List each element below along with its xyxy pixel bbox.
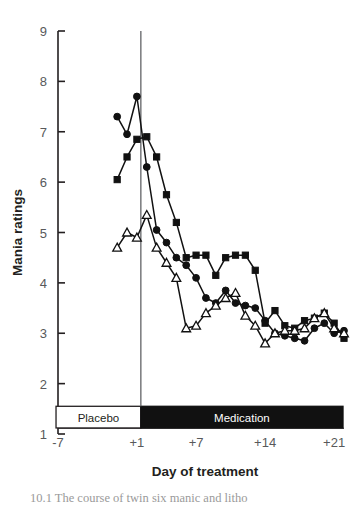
x-axis-tick-label: -7 (52, 435, 64, 450)
y-axis-tick-label: 9 (40, 24, 47, 39)
data-point-square (213, 272, 219, 278)
data-point-circle (321, 320, 328, 327)
y-axis-tick-label: 8 (40, 74, 47, 89)
data-point-circle (143, 164, 150, 171)
data-point-square (163, 192, 169, 198)
data-point-circle (124, 131, 131, 138)
y-axis-tick-label: 6 (40, 175, 47, 190)
data-point-circle (232, 300, 239, 307)
data-point-circle (291, 335, 298, 342)
data-point-circle (133, 93, 140, 100)
data-point-circle (301, 337, 308, 344)
x-axis-tick-label: +1 (129, 435, 144, 450)
data-point-square (183, 255, 189, 261)
y-axis-tick-label: 3 (40, 326, 47, 341)
data-point-square (223, 255, 229, 261)
data-point-square (232, 252, 238, 258)
x-axis-tick-label: +7 (189, 435, 204, 450)
phase-band-label-medication: Medication (214, 412, 270, 424)
data-point-circle (183, 262, 190, 269)
data-point-circle (163, 239, 170, 246)
data-point-square (134, 136, 140, 142)
y-axis-tick-label: 2 (40, 377, 47, 392)
figure-caption-text: 10.1 The course of twin six manic and li… (30, 491, 247, 505)
data-point-square (262, 320, 268, 326)
chart-background (0, 0, 364, 505)
data-point-square (272, 307, 278, 313)
data-point-circle (252, 305, 259, 312)
phase-band-label-placebo: Placebo (78, 412, 120, 424)
data-point-square (124, 154, 130, 160)
y-axis-tick-label: 5 (40, 226, 47, 241)
figure-container: 123456789 -7+1+7+14+21 PlaceboMedication… (0, 0, 364, 505)
data-point-square (193, 252, 199, 258)
y-axis-tick-label: 4 (40, 276, 47, 291)
data-point-square (154, 154, 160, 160)
y-axis-title: Mania ratings (10, 189, 25, 276)
data-point-circle (193, 274, 200, 281)
data-point-square (144, 134, 150, 140)
data-point-square (173, 219, 179, 225)
x-axis-title: Day of treatment (152, 464, 259, 479)
data-point-square (252, 267, 258, 273)
data-point-square (203, 252, 209, 258)
data-point-square (114, 177, 120, 183)
figure-caption: 10.1 The course of twin six manic and li… (30, 491, 247, 505)
data-point-circle (153, 227, 160, 234)
treatment-phase-bands: PlaceboMedication (56, 406, 343, 428)
data-point-circle (173, 254, 180, 261)
data-point-circle (114, 113, 121, 120)
data-point-square (242, 252, 248, 258)
y-axis-tick-label: 1 (40, 427, 47, 442)
mania-ratings-line-chart: 123456789 -7+1+7+14+21 PlaceboMedication… (0, 0, 364, 505)
data-point-circle (203, 295, 210, 302)
data-point-circle (311, 325, 318, 332)
y-axis-tick-label: 7 (40, 125, 47, 140)
data-point-circle (242, 302, 249, 309)
x-axis-tick-label: +14 (254, 435, 276, 450)
x-axis-tick-label: +21 (323, 435, 345, 450)
